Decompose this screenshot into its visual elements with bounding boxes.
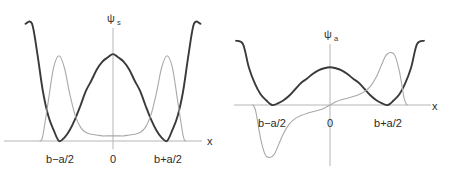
x-axis-label: x bbox=[207, 135, 213, 147]
tick-label-right: b+a/2 bbox=[374, 117, 402, 129]
tick-label-left: b−a/2 bbox=[46, 153, 74, 165]
panel-title: ψ bbox=[324, 28, 332, 40]
panel-right-plot: ψ a b−a/2 0 b+a/2 x bbox=[230, 0, 459, 178]
panel-antisymmetric-wavefunction: ψ a b−a/2 0 b+a/2 x bbox=[230, 0, 459, 178]
tick-label-left: b−a/2 bbox=[258, 117, 286, 129]
panel-symmetric-wavefunction: ψ s b−a/2 0 b+a/2 x bbox=[0, 0, 230, 178]
double-well-wavefunction-figure: ψ s b−a/2 0 b+a/2 x ψ a b−a/2 0 b+a/2 x bbox=[0, 0, 459, 178]
panel-title-subscript: s bbox=[117, 18, 121, 27]
panel-right-axes bbox=[234, 44, 431, 166]
panel-left-plot: ψ s b−a/2 0 b+a/2 x bbox=[0, 0, 230, 178]
tick-label-center: 0 bbox=[327, 117, 333, 129]
tick-label-center: 0 bbox=[110, 153, 116, 165]
x-axis-label: x bbox=[432, 100, 438, 112]
tick-label-right: b+a/2 bbox=[154, 153, 182, 165]
panel-title-subscript: a bbox=[334, 34, 339, 43]
panel-title: ψ bbox=[107, 12, 115, 24]
